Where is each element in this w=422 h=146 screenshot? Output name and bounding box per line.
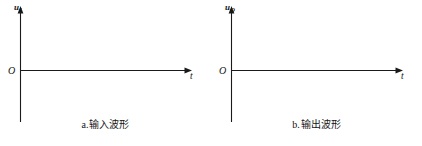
caption-text: 输入波形 xyxy=(89,119,129,130)
origin-label: O xyxy=(219,66,226,76)
origin-label: O xyxy=(8,66,15,76)
x-axis-label: t xyxy=(190,72,193,82)
y-axis-label-subscript: I xyxy=(19,6,22,13)
panel-input-waveform: uI O t a.输入波形 xyxy=(0,0,211,146)
caption-letter: a. xyxy=(82,119,89,130)
x-axis-label: t xyxy=(401,72,404,82)
y-axis-label: uO xyxy=(225,3,235,12)
caption-letter: b. xyxy=(292,119,300,130)
waveform-figure-row: uI O t a.输入波形 uO O t b.输出波形 xyxy=(0,0,422,146)
panel-caption: a.输入波形 xyxy=(0,119,211,131)
y-axis-label-subscript: O xyxy=(230,6,235,13)
caption-text: 输出波形 xyxy=(301,119,341,130)
panel-output-waveform: uO O t b.输出波形 xyxy=(211,0,422,146)
panel-caption: b.输出波形 xyxy=(211,119,422,131)
y-axis-label: uI xyxy=(14,3,22,12)
